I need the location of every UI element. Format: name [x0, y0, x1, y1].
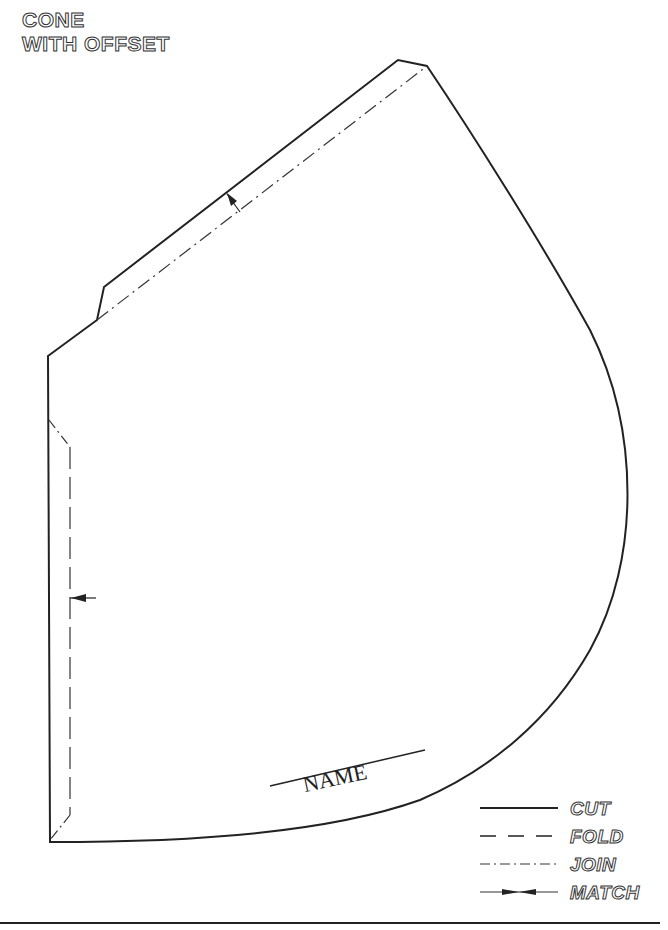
match-arrow-top-icon [227, 193, 240, 212]
legend-label-join: JOIN [570, 854, 616, 876]
match-arrow-left-icon [70, 594, 96, 602]
dash-dot-line-icon [478, 858, 562, 870]
legend-label-cut: CUT [570, 798, 611, 820]
legend-item-cut: CUT [478, 796, 668, 824]
join-line-top [97, 66, 427, 320]
legend-item-fold: FOLD [478, 824, 668, 852]
dashed-line-icon [478, 830, 562, 842]
line-legend: CUT FOLD JOIN MATCH [478, 796, 668, 908]
join-line-left-bottom [50, 815, 70, 840]
bottom-rule [0, 922, 660, 924]
match-arrows-icon [478, 886, 562, 898]
legend-item-match: MATCH [478, 880, 668, 908]
legend-label-fold: FOLD [570, 826, 624, 848]
legend-item-join: JOIN [478, 852, 668, 880]
join-line-left-top [49, 420, 70, 447]
solid-line-icon [478, 802, 562, 814]
cut-outline [48, 60, 628, 842]
legend-label-match: MATCH [570, 882, 640, 904]
